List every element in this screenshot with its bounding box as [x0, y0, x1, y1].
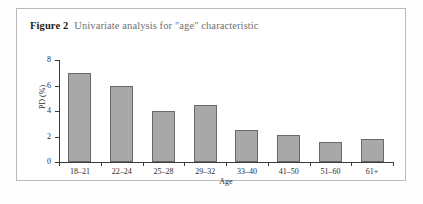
figure-container: Figure 2Univariate analysis for "age" ch…	[0, 0, 423, 204]
x-axis-tick-label: 29–32	[184, 168, 226, 176]
bar	[319, 142, 342, 162]
x-axis-tick-label: 18–21	[59, 168, 101, 176]
x-axis-tick	[184, 162, 185, 166]
y-axis-tick-label: 0	[37, 158, 51, 166]
x-axis-tick	[101, 162, 102, 166]
x-axis-label: Age	[59, 178, 393, 186]
x-axis-tick-label: 33–40	[226, 168, 268, 176]
bar	[152, 111, 175, 162]
x-axis-tick-label: 41–50	[268, 168, 310, 176]
y-axis-tick	[55, 60, 60, 61]
bar	[68, 73, 91, 162]
bar	[194, 105, 217, 162]
x-axis-tick	[351, 162, 352, 166]
x-axis-tick-label: 25–28	[143, 168, 185, 176]
bar	[361, 139, 384, 162]
x-axis-tick	[393, 162, 394, 166]
x-axis-tick-label: 22–24	[101, 168, 143, 176]
y-axis-tick-label: 8	[37, 56, 51, 64]
x-axis-tick-label: 61+	[351, 168, 393, 176]
y-axis-tick	[55, 111, 60, 112]
x-axis-tick	[143, 162, 144, 166]
x-axis-tick	[268, 162, 269, 166]
y-axis-tick-label: 2	[37, 133, 51, 141]
y-axis-label: PD (%)	[39, 77, 47, 117]
bar	[110, 86, 133, 163]
bar	[235, 130, 258, 162]
x-axis-tick	[59, 162, 60, 166]
bar	[277, 135, 300, 162]
x-axis-tick	[310, 162, 311, 166]
y-axis-tick	[55, 86, 60, 87]
x-axis-tick-label: 51–60	[310, 168, 352, 176]
x-axis-tick	[226, 162, 227, 166]
bar-chart-plot: 02468 18–2122–2425–2829–3233–4041–5051–6…	[0, 0, 423, 204]
y-axis-tick	[55, 137, 60, 138]
